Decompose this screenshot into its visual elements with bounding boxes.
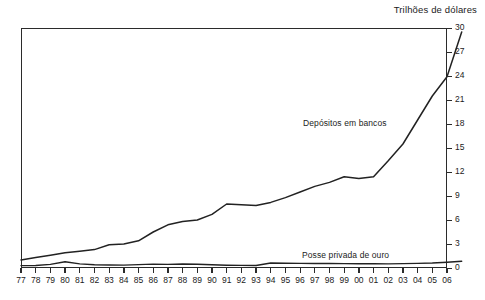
x-tick-mark	[300, 268, 301, 273]
x-tick-label: 91	[219, 275, 235, 286]
y-tick-label: 3	[455, 238, 460, 249]
x-tick-mark	[446, 268, 447, 273]
x-tick-label: 84	[116, 275, 132, 286]
x-tick-label: 80	[57, 275, 73, 286]
y-tick-mark	[447, 28, 452, 29]
x-tick-mark	[20, 268, 21, 273]
x-tick-label: 95	[277, 275, 293, 286]
x-tick-label: 04	[410, 275, 426, 286]
x-tick-label: 85	[131, 275, 147, 286]
plot-series-canvas	[21, 28, 447, 268]
x-tick-label: 99	[336, 275, 352, 286]
x-tick-mark	[329, 268, 330, 273]
x-tick-mark	[373, 268, 374, 273]
chart-title: Trilhões de dólares	[394, 4, 477, 16]
x-tick-label: 05	[424, 275, 440, 286]
x-tick-label: 01	[366, 275, 382, 286]
y-tick-label: 27	[455, 46, 464, 57]
y-tick-label: 21	[455, 94, 464, 105]
x-tick-mark	[79, 268, 80, 273]
x-tick-mark	[358, 268, 359, 273]
series-label-gold: Posse privada de ouro	[302, 250, 389, 261]
y-tick-mark	[447, 100, 452, 101]
x-tick-label: 98	[321, 275, 337, 286]
x-tick-label: 83	[101, 275, 117, 286]
x-tick-label: 96	[292, 275, 308, 286]
x-tick-label: 94	[263, 275, 279, 286]
x-tick-mark	[285, 268, 286, 273]
x-tick-label: 81	[72, 275, 88, 286]
y-tick-mark	[447, 148, 452, 149]
x-axis: 7778798081828384858687888990919293949596…	[21, 268, 447, 298]
x-tick-label: 82	[86, 275, 102, 286]
y-tick-label: 30	[455, 22, 464, 33]
y-axis: 036912151821242730	[447, 28, 485, 268]
x-tick-mark	[314, 268, 315, 273]
y-tick-label: 18	[455, 118, 464, 129]
x-tick-label: 86	[145, 275, 161, 286]
x-tick-label: 97	[307, 275, 323, 286]
x-tick-mark	[153, 268, 154, 273]
x-tick-label: 78	[28, 275, 44, 286]
x-tick-label: 02	[380, 275, 396, 286]
x-tick-label: 88	[175, 275, 191, 286]
x-tick-mark	[94, 268, 95, 273]
y-tick-mark	[447, 244, 452, 245]
y-tick-mark	[447, 52, 452, 53]
y-tick-label: 24	[455, 70, 464, 81]
x-tick-label: 89	[189, 275, 205, 286]
chart-figure: Trilhões de dólares Depósitos em bancos …	[0, 0, 485, 300]
y-tick-label: 15	[455, 142, 464, 153]
x-tick-label: 90	[204, 275, 220, 286]
x-tick-mark	[211, 268, 212, 273]
x-tick-mark	[167, 268, 168, 273]
x-tick-label: 87	[160, 275, 176, 286]
x-tick-mark	[417, 268, 418, 273]
x-tick-mark	[123, 268, 124, 273]
x-tick-mark	[182, 268, 183, 273]
y-tick-mark	[447, 196, 452, 197]
y-tick-mark	[447, 172, 452, 173]
y-tick-label: 0	[455, 262, 460, 273]
x-tick-label: 06	[439, 275, 455, 286]
y-tick-label: 9	[455, 190, 460, 201]
x-tick-mark	[197, 268, 198, 273]
y-tick-mark	[447, 76, 452, 77]
y-tick-mark	[447, 124, 452, 125]
x-tick-mark	[64, 268, 65, 273]
x-tick-mark	[270, 268, 271, 273]
x-tick-label: 00	[351, 275, 367, 286]
x-tick-label: 03	[395, 275, 411, 286]
x-tick-mark	[138, 268, 139, 273]
y-tick-label: 6	[455, 214, 460, 225]
y-tick-mark	[447, 220, 452, 221]
x-tick-mark	[344, 268, 345, 273]
x-tick-mark	[388, 268, 389, 273]
x-tick-mark	[402, 268, 403, 273]
x-tick-mark	[432, 268, 433, 273]
series-line-gold	[21, 261, 462, 265]
y-tick-mark	[447, 268, 452, 269]
x-tick-label: 92	[233, 275, 249, 286]
x-tick-label: 79	[42, 275, 58, 286]
series-line-deposits	[21, 32, 462, 260]
series-label-deposits: Depósitos em bancos	[303, 118, 387, 129]
x-tick-label: 93	[248, 275, 264, 286]
x-tick-mark	[241, 268, 242, 273]
x-tick-mark	[255, 268, 256, 273]
x-tick-mark	[109, 268, 110, 273]
x-tick-label: 77	[13, 275, 29, 286]
x-tick-mark	[226, 268, 227, 273]
x-tick-mark	[35, 268, 36, 273]
x-tick-mark	[50, 268, 51, 273]
y-tick-label: 12	[455, 166, 464, 177]
